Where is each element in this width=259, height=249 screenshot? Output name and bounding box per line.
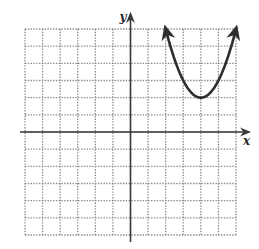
- axes: [20, 14, 249, 242]
- coordinate-plane-chart: x y: [0, 0, 259, 249]
- y-axis-label: y: [119, 10, 128, 24]
- plot-canvas: x y: [0, 0, 259, 249]
- x-axis-label: x: [242, 134, 251, 148]
